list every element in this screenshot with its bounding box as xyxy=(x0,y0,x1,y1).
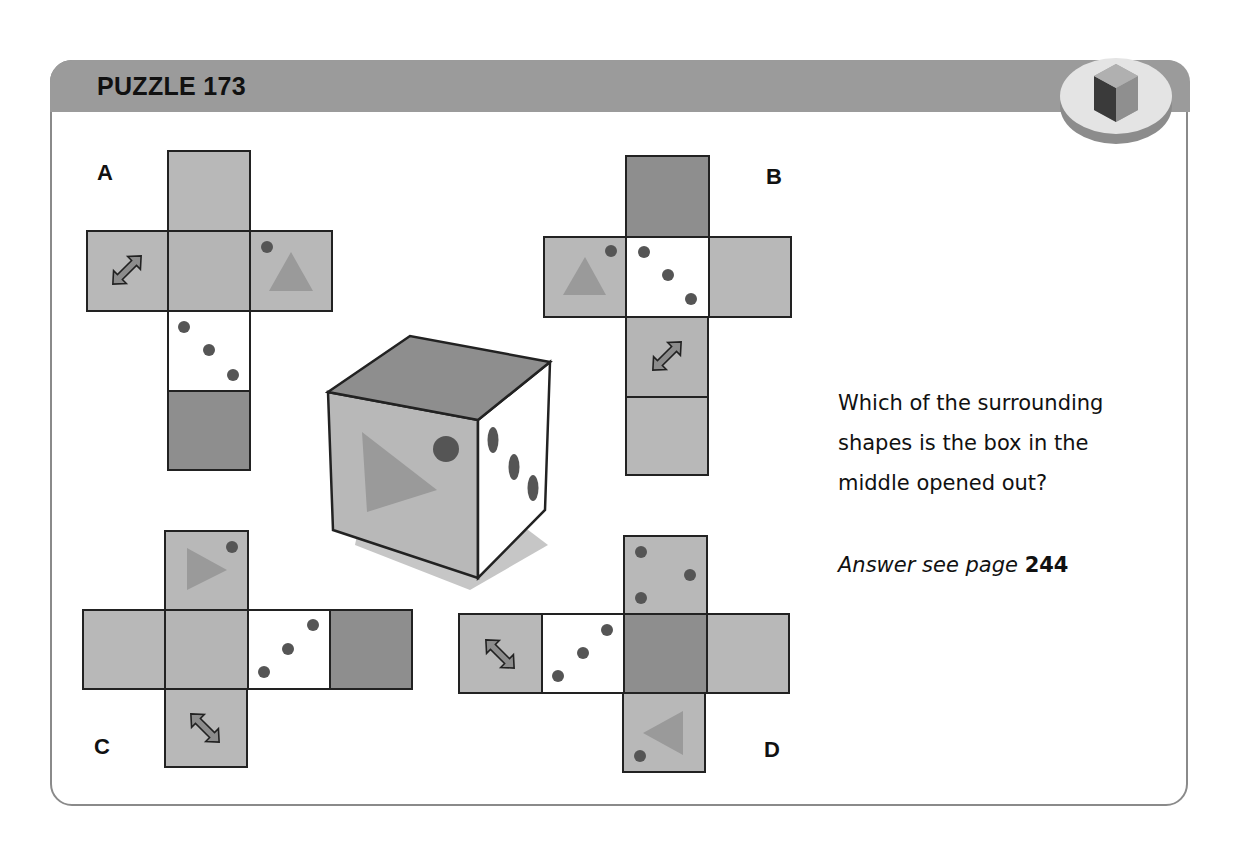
answer-reference: Answer see page 244 xyxy=(838,553,1068,577)
answer-prefix: Answer see page xyxy=(838,553,1018,577)
net-option-a[interactable] xyxy=(87,151,332,470)
net-option-c[interactable] xyxy=(83,531,412,767)
answer-page-number: 244 xyxy=(1025,553,1069,577)
net-option-b[interactable] xyxy=(544,156,791,475)
question-text: Which of the surrounding shapes is the b… xyxy=(838,383,1158,503)
cube-3d xyxy=(328,336,550,590)
net-option-d[interactable] xyxy=(459,536,789,772)
